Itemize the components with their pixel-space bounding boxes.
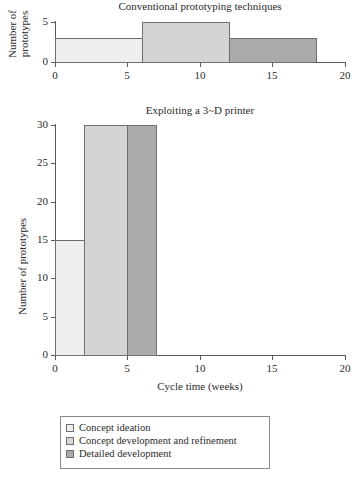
x-tick-label-bottom-5: 5 (117, 363, 137, 374)
y-tick-label-bottom-0: 0 (26, 349, 48, 360)
legend-item-detailed-development: Detailed development (66, 447, 263, 460)
bar-top-concept-ideation (55, 38, 143, 63)
x-tick-label-bottom-10: 10 (190, 363, 210, 374)
x-tick-label-top-5: 5 (117, 70, 137, 81)
chart-conventional-prototyping: Conventional prototyping techniques Numb… (0, 0, 358, 95)
x-tick-label-top-20: 20 (335, 70, 355, 81)
plot-area-top: 0 5 0 5 10 15 20 (0, 0, 358, 95)
x-tick-label-bottom-0: 0 (45, 363, 65, 374)
legend-swatch-concept-ideation (66, 424, 74, 432)
x-tick-bottom-5 (127, 356, 128, 360)
x-tick-bottom-20 (345, 356, 346, 360)
legend-label-concept-ideation: Concept ideation (79, 422, 150, 433)
y-tick-label-bottom-30: 30 (26, 119, 48, 130)
y-tick-label-top-5: 5 (28, 16, 48, 27)
chart-3d-printer: Exploiting a 3~D printer Number of proto… (0, 100, 358, 400)
x-tick-top-5 (127, 63, 128, 67)
x-tick-top-0 (55, 63, 56, 67)
x-tick-bottom-10 (200, 356, 201, 360)
bar-bottom-concept-development (84, 125, 128, 356)
y-tick-label-bottom-15: 15 (26, 234, 48, 245)
y-tick-label-bottom-10: 10 (26, 272, 48, 283)
legend-label-detailed-development: Detailed development (79, 448, 171, 459)
x-tick-label-bottom-15: 15 (262, 363, 282, 374)
bar-bottom-concept-ideation (55, 240, 85, 356)
legend-swatch-concept-development (66, 437, 74, 445)
x-tick-top-20 (345, 63, 346, 67)
bar-top-detailed-development (229, 38, 317, 63)
bar-bottom-detailed-development (127, 125, 157, 356)
x-axis-title-bottom: Cycle time (weeks) (55, 380, 345, 392)
x-tick-top-15 (272, 63, 273, 67)
legend-swatch-detailed-development (66, 450, 74, 458)
y-tick-label-bottom-5: 5 (26, 311, 48, 322)
x-tick-label-top-10: 10 (190, 70, 210, 81)
y-tick-top-5 (51, 22, 55, 23)
y-tick-label-bottom-20: 20 (26, 196, 48, 207)
y-tick-bottom-30 (51, 125, 55, 126)
legend-item-concept-development: Concept development and refinement (66, 434, 263, 447)
legend-item-concept-ideation: Concept ideation (66, 421, 263, 434)
x-tick-top-10 (200, 63, 201, 67)
plot-area-bottom: 0 5 10 15 20 25 30 0 5 10 15 20 Cycle ti… (0, 100, 358, 400)
x-tick-bottom-0 (55, 356, 56, 360)
legend: Concept ideation Concept development and… (60, 416, 270, 469)
y-tick-label-top-0: 0 (28, 56, 48, 67)
x-tick-label-bottom-20: 20 (335, 363, 355, 374)
bar-top-concept-development (142, 22, 230, 63)
x-tick-bottom-15 (272, 356, 273, 360)
x-tick-label-top-0: 0 (45, 70, 65, 81)
x-tick-label-top-15: 15 (262, 70, 282, 81)
y-tick-bottom-20 (51, 202, 55, 203)
legend-label-concept-development: Concept development and refinement (79, 435, 237, 446)
y-tick-label-bottom-25: 25 (26, 157, 48, 168)
y-tick-bottom-25 (51, 163, 55, 164)
